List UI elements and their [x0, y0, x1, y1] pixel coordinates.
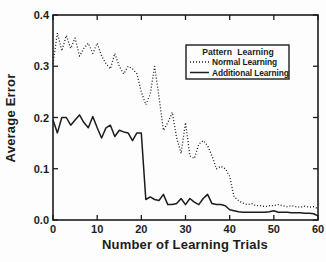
x-tick-label: 40 [224, 223, 236, 235]
y-tick-label: 0.1 [34, 163, 49, 175]
x-axis-label: Number of Learning Trials [102, 237, 268, 252]
legend-entry-additional-learning: Additional Learning [212, 68, 289, 78]
line-chart: 01020304050600.00.10.20.30.4 Number of L… [0, 0, 326, 262]
x-tick-label: 20 [135, 223, 147, 235]
series-line-additional-learning [53, 115, 318, 216]
legend-entry-normal-learning: Normal Learning [212, 57, 277, 67]
x-tick-label: 10 [91, 223, 103, 235]
legend: Pattern Learning Normal Learning Additio… [186, 45, 289, 79]
y-tick-label: 0.2 [34, 112, 49, 124]
legend-title: Pattern Learning [202, 47, 273, 57]
x-tick-label: 50 [268, 223, 280, 235]
y-tick-label: 0.3 [34, 60, 49, 72]
y-tick-label: 0.4 [34, 9, 50, 21]
x-tick-label: 60 [312, 223, 324, 235]
x-tick-label: 30 [179, 223, 191, 235]
plot-area: 01020304050600.00.10.20.30.4 [34, 9, 324, 235]
x-tick-label: 0 [50, 223, 56, 235]
figure: 01020304050600.00.10.20.30.4 Number of L… [0, 0, 326, 262]
y-axis-label: Average Error [3, 74, 18, 163]
y-tick-label: 0.0 [34, 214, 49, 226]
